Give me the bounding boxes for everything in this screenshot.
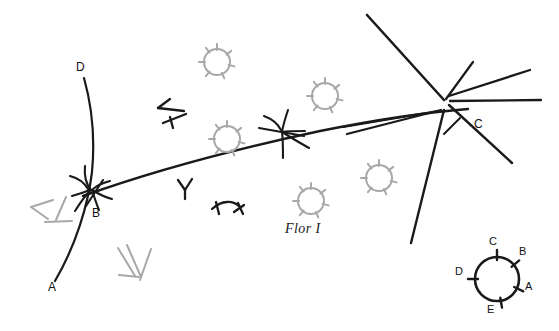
compass-label-C: C — [489, 236, 497, 247]
compass-label-D: D — [455, 266, 463, 277]
ring-mark — [307, 78, 343, 112]
figure-caption: Flor I — [285, 221, 320, 237]
main-curve-group — [55, 78, 468, 281]
tent-marks-group — [31, 197, 151, 280]
bird-mark-3 — [212, 202, 244, 214]
node-mid-petal-2 — [282, 110, 288, 132]
tent-mark-1 — [31, 197, 72, 222]
bird-marks-group — [158, 99, 244, 214]
compass-label-B: B — [519, 246, 526, 257]
drawing-layer — [0, 0, 559, 331]
burst-ray-w — [343, 111, 438, 127]
bird-mark-1 — [158, 99, 186, 128]
label-D: D — [76, 61, 85, 73]
node-mid-petal-4 — [282, 132, 283, 158]
compass-tick-E — [500, 298, 502, 308]
ring-mark — [361, 160, 397, 194]
burst-ray-ne — [449, 70, 530, 96]
burst-ray-nw — [367, 15, 444, 100]
node-C-burst — [343, 15, 541, 243]
figure-canvas: D B A C Flor I C B A E D — [0, 0, 559, 331]
node-mid-petal-1 — [264, 116, 281, 130]
label-B: B — [92, 207, 100, 219]
ring-mark — [293, 183, 329, 217]
burst-ray-se — [449, 105, 512, 163]
compass-circle — [475, 257, 519, 301]
ring-mark — [199, 44, 235, 78]
burst-ray-e — [450, 100, 541, 101]
bird-mark-2 — [178, 179, 192, 199]
compass-label-E: E — [487, 304, 494, 315]
burst-ray-s — [411, 110, 444, 243]
label-C: C — [474, 118, 483, 130]
branch-line-DA — [55, 78, 93, 281]
compass-label-A: A — [525, 281, 532, 292]
tent-mark-2 — [118, 245, 151, 280]
label-A: A — [48, 281, 56, 293]
crossing-tick-at-C — [444, 118, 460, 134]
compass-rose — [468, 250, 523, 308]
